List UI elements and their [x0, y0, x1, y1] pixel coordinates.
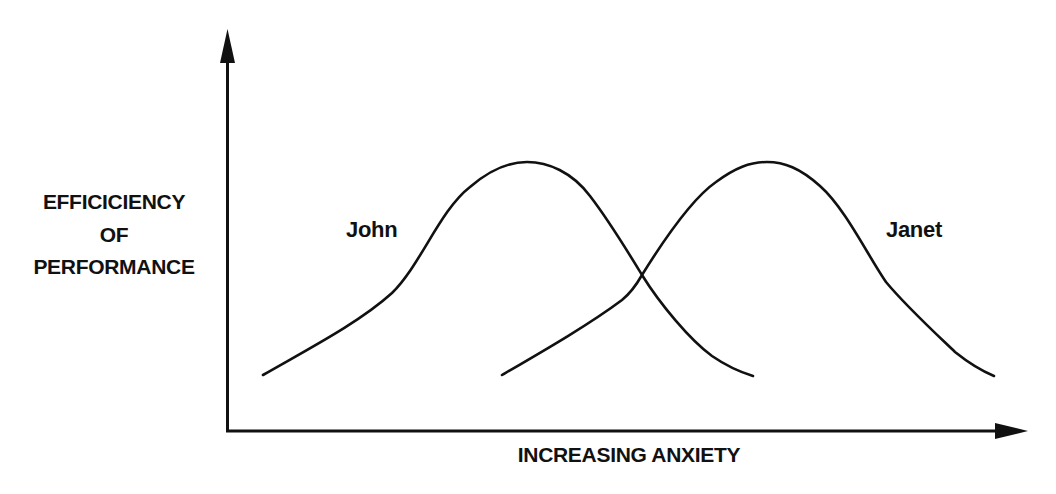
y-axis-label-line-3: PERFORMANCE: [0, 251, 228, 284]
chart-canvas: EFFICICIENCY OF PERFORMANCE INCREASING A…: [0, 0, 1056, 494]
x-axis-arrow-icon: [995, 423, 1028, 439]
y-axis-arrow-icon: [220, 29, 235, 63]
x-axis-label: INCREASING ANXIETY: [440, 443, 818, 467]
series-label-john: John: [346, 217, 397, 243]
y-axis-label-line-2: OF: [0, 219, 228, 252]
series-label-janet: Janet: [886, 217, 942, 243]
y-axis-label: EFFICICIENCY OF PERFORMANCE: [0, 186, 228, 284]
y-axis-label-line-1: EFFICICIENCY: [0, 186, 228, 219]
john-curve: [263, 162, 753, 376]
janet-curve: [502, 162, 994, 376]
